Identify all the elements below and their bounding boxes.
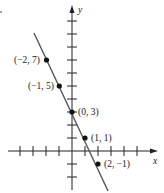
point-neg1-5 bbox=[57, 83, 62, 88]
point-label-1: (−2, 7) bbox=[14, 55, 40, 66]
point-label-2: (−1, 5) bbox=[28, 81, 54, 92]
x-axis bbox=[8, 146, 154, 156]
point-label-3: (0, 3) bbox=[78, 107, 99, 118]
point-label-5: (2, −1) bbox=[104, 159, 130, 170]
y-axis-label: y bbox=[77, 5, 83, 15]
y-axis-arrow-icon bbox=[70, 5, 75, 13]
point-0-3 bbox=[69, 109, 74, 114]
point-1-1 bbox=[82, 135, 87, 140]
point-2-neg1 bbox=[95, 161, 100, 166]
x-axis-arrow-icon bbox=[150, 149, 158, 154]
point-neg2-7 bbox=[44, 57, 49, 62]
stray-dot bbox=[0, 11, 2, 13]
coordinate-plane-chart: y x (−2, 7) (−1, 5) (0, 3) (1, 1) (2, −1… bbox=[0, 0, 164, 193]
y-axis bbox=[67, 9, 77, 190]
point-label-4: (1, 1) bbox=[91, 133, 112, 144]
x-axis-label: x bbox=[152, 156, 158, 166]
